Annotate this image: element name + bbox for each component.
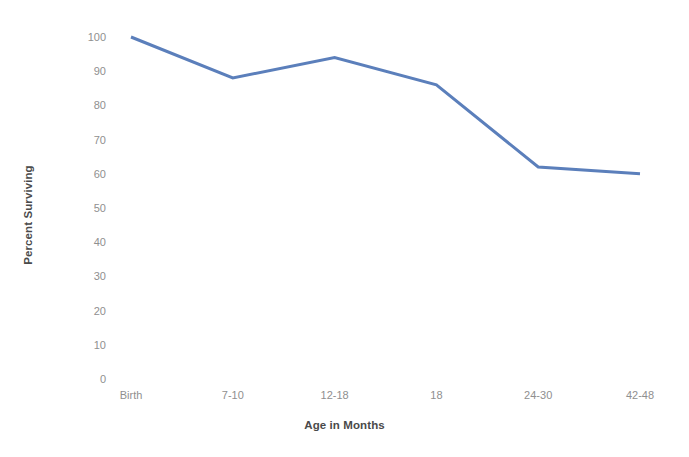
y-axis-tick-label: 10: [64, 339, 106, 351]
line-chart: 1009080706050403020100 Percent Surviving…: [0, 0, 689, 457]
x-axis-tick-labels: Birth7-1012-181824-3042-48: [0, 389, 689, 407]
y-axis-tick-label: 0: [64, 373, 106, 385]
y-axis-tick-label: 80: [64, 99, 106, 111]
x-axis-tick-label: 42-48: [595, 389, 685, 402]
y-axis-tick-label: 60: [64, 168, 106, 180]
y-axis-tick-label: 40: [64, 236, 106, 248]
y-axis-tick-label: 30: [64, 270, 106, 282]
y-axis-tick-label: 90: [64, 65, 106, 77]
y-axis-tick-label: 70: [64, 134, 106, 146]
y-axis-tick-label: 20: [64, 305, 106, 317]
x-axis-tick-label: 24-30: [493, 389, 583, 402]
x-axis-tick-label: 12-18: [290, 389, 380, 402]
y-axis-title: Percent Surviving: [22, 145, 34, 285]
y-axis-tick-label: 100: [64, 31, 106, 43]
x-axis-tick-label: 18: [391, 389, 481, 402]
x-axis-tick-label: Birth: [86, 389, 176, 402]
x-axis-title: Age in Months: [0, 419, 689, 431]
series-polyline: [131, 37, 640, 174]
y-axis-tick-label: 50: [64, 202, 106, 214]
x-axis-tick-label: 7-10: [188, 389, 278, 402]
